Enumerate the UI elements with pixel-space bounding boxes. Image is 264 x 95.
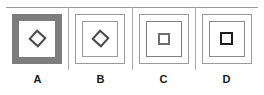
panel-b-diamond-shape xyxy=(91,29,109,47)
panel-label-c: C xyxy=(132,70,195,90)
panel-c-square-shape xyxy=(158,33,170,45)
panel-label-d: D xyxy=(195,70,258,90)
panel-b-inner-frame xyxy=(82,21,118,57)
panel-c-inner-frame xyxy=(146,21,182,57)
panel-a-diamond-shape xyxy=(28,29,46,47)
panel-d xyxy=(195,7,258,70)
panel-d-square-shape xyxy=(220,32,233,45)
panel-c xyxy=(132,7,195,70)
shape-comparison-figure: A B C D xyxy=(0,0,264,95)
panel-a-inner-frame xyxy=(19,21,55,57)
panel-label-row: A B C D xyxy=(6,70,258,90)
panel-label-a: A xyxy=(6,70,69,90)
panel-label-b: B xyxy=(69,70,132,90)
panel-b xyxy=(68,7,131,70)
panel-a-outer-frame xyxy=(12,14,62,64)
panel-c-outer-frame xyxy=(139,14,189,64)
panel-d-inner-frame xyxy=(209,21,245,57)
panel-strip xyxy=(6,7,258,70)
panel-b-outer-frame xyxy=(75,14,125,64)
panel-a xyxy=(6,7,68,70)
panel-d-outer-frame xyxy=(202,14,252,64)
